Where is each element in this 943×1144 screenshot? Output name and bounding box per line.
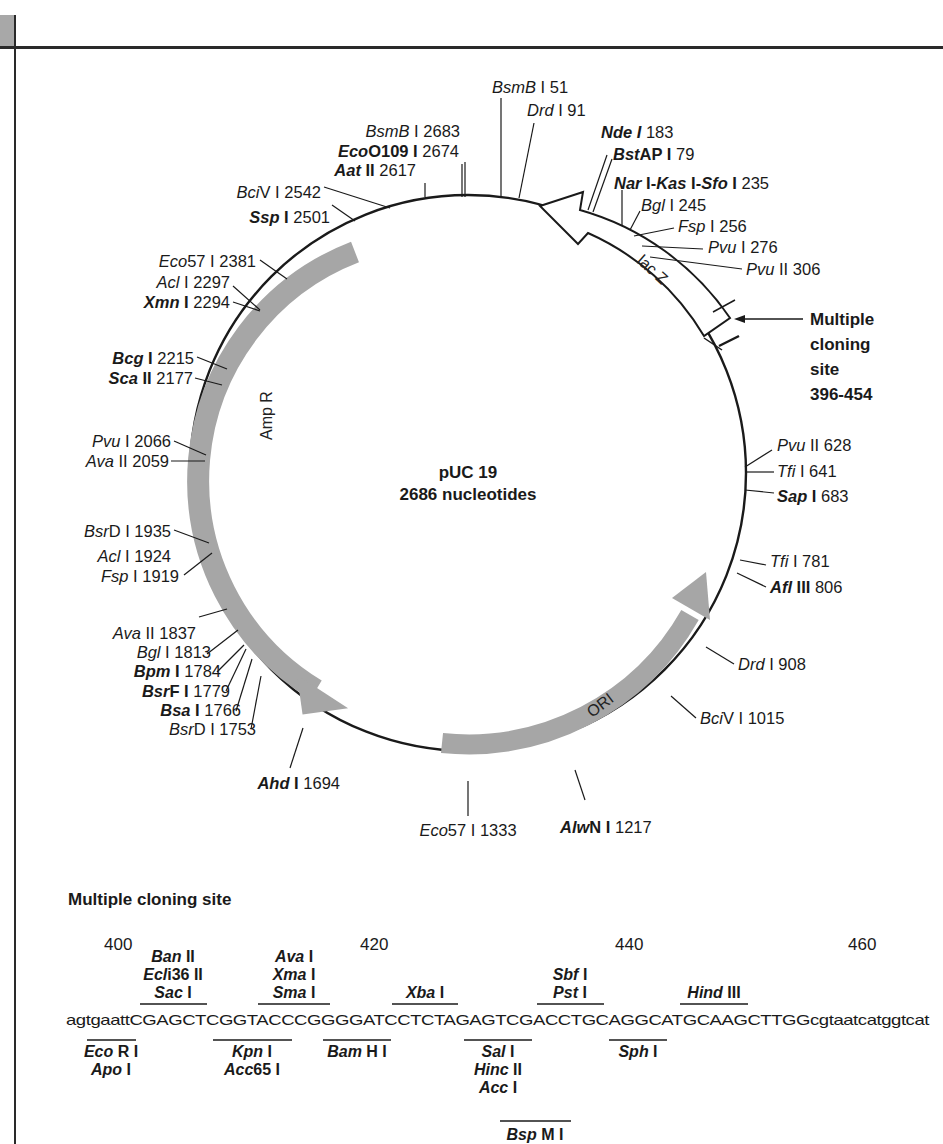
site-label-pvu2-628: Pvu II 628 bbox=[777, 436, 851, 454]
mcs-enzyme-above-4-0: Hind III bbox=[687, 984, 740, 1001]
site-label-bgl1-245: Bgl I 245 bbox=[641, 196, 706, 214]
site-label-bstap1-79: BstAP I 79 bbox=[613, 145, 694, 163]
site-label-tfi1-781: Tfi I 781 bbox=[770, 552, 830, 570]
mcs-enzyme-above-1-1: Xma I bbox=[272, 966, 316, 983]
site-label-sca2-2177: Sca II 2177 bbox=[109, 369, 193, 387]
svg-text:site: site bbox=[810, 360, 839, 379]
mcs-enzyme-above-2-0: Xba I bbox=[405, 984, 444, 1001]
site-label-acl1-2297: Acl I 2297 bbox=[156, 273, 230, 291]
mcs-pos-420: 420 bbox=[360, 935, 388, 954]
mcs-pos-400: 400 bbox=[104, 935, 132, 954]
mcs-enzyme-above-1-0: Ava I bbox=[274, 948, 313, 965]
site-label-bpm1-1784: Bpm I 1784 bbox=[134, 662, 221, 680]
site-label-xmn1-2294: Xmn I 2294 bbox=[143, 293, 230, 311]
mcs-sequence: agtgaattCGAGCTCGGTACCCGGGGATCCTCTAGAGTCG… bbox=[66, 1012, 929, 1028]
site-label-bsrd1-1753: BsrD I 1753 bbox=[169, 720, 256, 738]
site-label-pvu2-306: Pvu II 306 bbox=[746, 260, 820, 278]
mcs-enzyme-above-1-2: Sma I bbox=[273, 984, 316, 1001]
plasmid-size: 2686 nucleotides bbox=[399, 485, 536, 504]
site-label-sap1-683: Sap I 683 bbox=[777, 487, 849, 505]
site-label-bgl1-1813: Bgl I 1813 bbox=[137, 643, 211, 661]
site-label-ahd1-1694: Ahd I 1694 bbox=[256, 774, 340, 792]
site-label-ava2-2059: Ava II 2059 bbox=[85, 452, 169, 470]
svg-text:cloning: cloning bbox=[810, 335, 870, 354]
mcs-enzyme-below-1-0: Kpn I bbox=[232, 1043, 272, 1060]
site-label-aat2-2617: Aat II 2617 bbox=[333, 161, 416, 179]
site-label-tfi1-641: Tfi I 641 bbox=[777, 462, 837, 480]
plasmid-name: pUC 19 bbox=[439, 463, 498, 482]
mcs-enzyme-above-3-1: Pst I bbox=[553, 984, 587, 1001]
mcs-pos-460: 460 bbox=[848, 935, 876, 954]
mcs-enzyme-above-0-0: Ban II bbox=[151, 948, 195, 965]
site-label-bsrf1-1779: BsrF I 1779 bbox=[142, 682, 230, 700]
mcs-enzyme-below-3-2: Acc I bbox=[478, 1079, 517, 1096]
site-label-ava2-1837: Ava II 1837 bbox=[112, 624, 196, 642]
site-label-fsp1-256: Fsp I 256 bbox=[678, 217, 747, 235]
mcs-enzyme-below-4-0: Sph I bbox=[618, 1043, 657, 1060]
mcs-pos-440: 440 bbox=[615, 935, 643, 954]
mcs-enzyme-above-3-0: Sbf I bbox=[553, 966, 588, 983]
svg-text:396-454: 396-454 bbox=[810, 385, 873, 404]
site-label-nde1-183: Nde I 183 bbox=[601, 123, 673, 141]
mcs-box bbox=[704, 336, 739, 350]
site-label-pvu1-276: Pvu I 276 bbox=[708, 238, 778, 256]
ampr-label: Amp R bbox=[258, 391, 275, 440]
site-label-bsmb1-2683: BsmB I 2683 bbox=[366, 122, 460, 140]
ori-arrow: ORI bbox=[442, 572, 710, 744]
site-label-bciv1-1015: BciV I 1015 bbox=[700, 709, 784, 727]
mcs-enzyme-below-2-0: Bam H I bbox=[327, 1043, 387, 1060]
site-label-eco57-2381: Eco57 I 2381 bbox=[159, 252, 256, 270]
mcs-enzyme-below-5-0: Bsp M I bbox=[507, 1126, 564, 1143]
site-label-acl1-1924: Acl I 1924 bbox=[97, 547, 171, 565]
mcs-enzyme-below-0-1: Apo I bbox=[90, 1061, 131, 1078]
svg-text:Multiple: Multiple bbox=[810, 310, 874, 329]
site-label-drd1-91: Drd I 91 bbox=[527, 101, 586, 119]
site-label-drd1-908: Drd I 908 bbox=[738, 655, 806, 673]
mcs-enzyme-below-0-0: Eco R I bbox=[84, 1043, 138, 1060]
plasmid-map: Amp R ORI lac Z Multiple cloning site 39… bbox=[0, 0, 943, 1144]
site-label-bsa1-1766: Bsa I 1766 bbox=[160, 701, 241, 719]
site-label-eco57-1333: Eco57 I 1333 bbox=[419, 821, 516, 839]
mcs-title: Multiple cloning site bbox=[68, 890, 231, 910]
ampr-arrow: Amp R bbox=[198, 252, 355, 715]
site-label-eco0109-2674: EcoO109 I 2674 bbox=[338, 142, 459, 160]
site-label-bcg1-2215: Bcg I 2215 bbox=[112, 349, 194, 367]
mcs-enzyme-above-0-2: Sac I bbox=[154, 984, 191, 1001]
site-label-bsrd1-1935: BsrD I 1935 bbox=[84, 522, 171, 540]
mcs-enzyme-below-3-0: Sal I bbox=[482, 1043, 515, 1060]
mcs-enzyme-below-1-1: Acc65 I bbox=[223, 1061, 280, 1078]
site-label-afl3-806: Afl III 806 bbox=[769, 578, 842, 596]
site-label-fsp1-1919: Fsp I 1919 bbox=[101, 567, 179, 585]
site-label-ssp1-2501: Ssp I 2501 bbox=[249, 208, 330, 226]
site-label-nar-kas-sfo-235: Nar I-Kas I-Sfo I 235 bbox=[614, 174, 769, 192]
mcs-callout: Multiple cloning site 396-454 bbox=[734, 310, 874, 404]
site-label-pvu1-2066: Pvu I 2066 bbox=[92, 432, 171, 450]
mcs-enzyme-below-3-1: Hinc II bbox=[474, 1061, 522, 1078]
mcs-enzyme-labels: Ban IIEcli36 IISac IAva IXma ISma IXba I… bbox=[84, 948, 741, 1143]
site-label-bsmb1-51: BsmB I 51 bbox=[492, 78, 568, 96]
site-label-alwn1-1217: AlwN I 1217 bbox=[559, 818, 652, 836]
site-label-bciv1-2542: BciV I 2542 bbox=[237, 183, 321, 201]
mcs-enzyme-above-0-1: Ecli36 II bbox=[143, 966, 203, 983]
